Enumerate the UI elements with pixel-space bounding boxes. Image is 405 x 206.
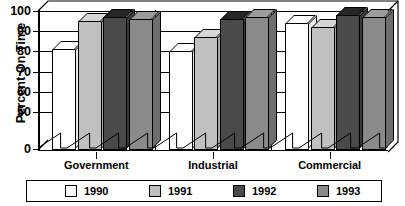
y-axis-tick-label: 0 bbox=[24, 143, 31, 156]
category-tick bbox=[330, 152, 331, 159]
chart-container: Percent On Time 10090807060500 Governmen… bbox=[0, 0, 405, 206]
category-tick bbox=[213, 152, 214, 159]
legend: 1990199119921993 bbox=[26, 180, 382, 202]
category-label-commercial: Commercial bbox=[298, 159, 361, 171]
legend-swatch-1992 bbox=[233, 185, 245, 197]
legend-item-1991[interactable]: 1991 bbox=[149, 184, 192, 198]
legend-label-1992: 1992 bbox=[252, 186, 276, 197]
y-axis-tick-label: 50 bbox=[17, 106, 31, 119]
legend-item-1990[interactable]: 1990 bbox=[65, 184, 108, 198]
legend-swatch-1991 bbox=[149, 185, 161, 197]
legend-swatch-1990 bbox=[65, 185, 77, 197]
legend-label-1991: 1991 bbox=[168, 186, 192, 197]
legend-label-1990: 1990 bbox=[84, 186, 108, 197]
y-axis-tick-label: 60 bbox=[17, 86, 31, 99]
y-axis-tick-label: 80 bbox=[17, 45, 31, 58]
category-tick bbox=[96, 152, 97, 159]
category-label-industrial: Industrial bbox=[188, 159, 238, 171]
category-axis: GovernmentIndustrialCommercial bbox=[38, 152, 388, 168]
y-axis-tick-label: 100 bbox=[10, 5, 31, 18]
legend-item-1993[interactable]: 1993 bbox=[317, 184, 360, 198]
legend-swatch-1993 bbox=[317, 185, 329, 197]
category-label-government: Government bbox=[64, 159, 129, 171]
plot-depth-frame bbox=[38, 0, 400, 152]
legend-label-1993: 1993 bbox=[336, 186, 360, 197]
y-axis-tick-label: 70 bbox=[17, 66, 31, 79]
plot-area: 10090807060500 bbox=[38, 10, 388, 151]
legend-item-1992[interactable]: 1992 bbox=[233, 184, 276, 198]
y-axis-tick-label: 90 bbox=[17, 25, 31, 38]
